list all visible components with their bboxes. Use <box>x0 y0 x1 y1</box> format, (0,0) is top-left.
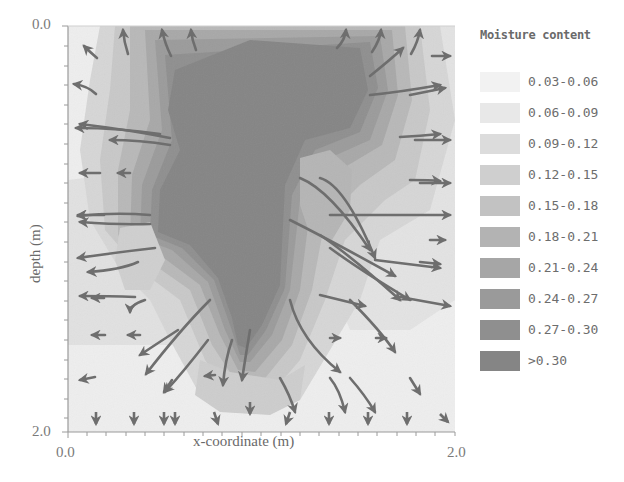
legend-label: 0.27-0.30 <box>528 322 598 337</box>
legend-label: 0.12-0.15 <box>528 167 598 182</box>
legend-swatch <box>480 196 520 216</box>
legend-label: >0.30 <box>528 353 567 368</box>
legend-label: 0.21-0.24 <box>528 260 598 275</box>
legend-label: 0.18-0.21 <box>528 229 598 244</box>
legend-item: 0.06-0.09 <box>480 97 620 128</box>
y-axis-title: depth (m) <box>27 224 44 283</box>
legend-item: 0.18-0.21 <box>480 221 620 252</box>
legend-item: 0.27-0.30 <box>480 314 620 345</box>
legend: Moisture content 0.03-0.06 0.06-0.09 0.0… <box>480 28 620 376</box>
contour-bands <box>68 26 455 432</box>
legend-label: 0.06-0.09 <box>528 105 598 120</box>
legend-label: 0.03-0.06 <box>528 74 598 89</box>
x-tick-min-label: 0.0 <box>56 444 75 461</box>
x-axis-title: x-coordinate (m) <box>193 433 294 450</box>
legend-title: Moisture content <box>480 28 620 42</box>
legend-item: 0.24-0.27 <box>480 283 620 314</box>
legend-item: 0.12-0.15 <box>480 159 620 190</box>
y-tick-bottom-label: 2.0 <box>32 423 51 440</box>
legend-item: >0.30 <box>480 345 620 376</box>
legend-label: 0.15-0.18 <box>528 198 598 213</box>
legend-swatch <box>480 289 520 309</box>
legend-label: 0.09-0.12 <box>528 136 598 151</box>
legend-swatch <box>480 72 520 92</box>
legend-swatch <box>480 227 520 247</box>
y-ticks <box>62 26 68 432</box>
legend-swatch <box>480 351 520 371</box>
y-tick-top-label: 0.0 <box>32 16 51 33</box>
legend-swatch <box>480 103 520 123</box>
legend-swatch <box>480 165 520 185</box>
legend-label: 0.24-0.27 <box>528 291 598 306</box>
legend-item: 0.15-0.18 <box>480 190 620 221</box>
legend-item: 0.21-0.24 <box>480 252 620 283</box>
legend-items: 0.03-0.06 0.06-0.09 0.09-0.12 0.12-0.15 … <box>480 66 620 376</box>
legend-swatch <box>480 258 520 278</box>
x-tick-max-label: 2.0 <box>447 444 466 461</box>
legend-item: 0.03-0.06 <box>480 66 620 97</box>
legend-item: 0.09-0.12 <box>480 128 620 159</box>
legend-swatch <box>480 320 520 340</box>
moisture-contour-chart: 0.0 2.0 0.0 2.0 x-coordinate (m) depth (… <box>0 0 624 482</box>
legend-swatch <box>480 134 520 154</box>
